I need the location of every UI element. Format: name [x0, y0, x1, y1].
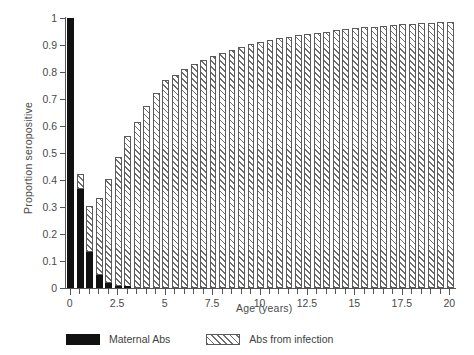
bar-segment-maternal — [124, 286, 131, 288]
legend-swatch-infection-icon — [206, 334, 240, 345]
bar-segment-infection — [210, 56, 217, 288]
bar-segment-infection — [342, 29, 349, 288]
plot-area: 00.10.20.30.40.50.60.70.80.91 — [66, 18, 455, 288]
bar — [380, 26, 387, 288]
bar-segment-infection — [437, 22, 444, 288]
bar — [153, 93, 160, 288]
x-tick-mark-minor — [79, 289, 80, 294]
bar-segment-infection — [248, 44, 255, 288]
x-tick-mark-major — [307, 289, 308, 295]
y-tick-mark — [60, 18, 66, 19]
bar-segment-maternal — [67, 18, 74, 288]
x-tick-mark-minor — [146, 289, 147, 294]
bar-segment-infection — [409, 24, 416, 288]
bar-segment-infection — [314, 33, 321, 288]
bar — [105, 180, 112, 288]
x-tick-mark-minor — [108, 289, 109, 294]
x-tick-mark-minor — [316, 289, 317, 294]
y-tick-mark — [60, 234, 66, 235]
bar-segment-infection — [124, 136, 131, 288]
y-axis-label: Proportion seropositive — [22, 58, 34, 258]
x-tick-mark-minor — [345, 289, 346, 294]
bar — [267, 40, 274, 288]
chart-figure: Proportion seropositive Age (years) 00.1… — [0, 0, 474, 355]
bar-segment-infection — [447, 22, 454, 288]
bar-segment-maternal — [77, 189, 84, 288]
bar — [304, 34, 311, 288]
bar-segment-infection — [380, 26, 387, 288]
bar — [172, 75, 179, 288]
y-tick-label: 0.9 — [42, 39, 57, 51]
y-tick-label: 0.7 — [42, 93, 57, 105]
bar-segment-infection — [304, 34, 311, 288]
bar-segment-infection — [361, 27, 368, 288]
x-tick-label: 0 — [67, 297, 73, 309]
bar-segment-infection — [115, 157, 122, 286]
bar — [162, 80, 169, 288]
bar-segment-infection — [399, 24, 406, 288]
bar-segment-infection — [229, 50, 236, 288]
x-tick-mark-minor — [288, 289, 289, 294]
bar-segment-infection — [286, 37, 293, 288]
y-tick-label: 0 — [51, 282, 57, 294]
bar-segment-infection — [86, 206, 93, 252]
x-tick-mark-minor — [174, 289, 175, 294]
bar — [418, 23, 425, 288]
bar-segment-infection — [333, 30, 340, 288]
x-tick-mark-major — [70, 289, 71, 295]
bar-segment-infection — [162, 80, 169, 288]
bar-segment-infection — [191, 64, 198, 288]
bar-segment-infection — [352, 28, 359, 288]
x-tick-mark-minor — [193, 289, 194, 294]
y-tick-mark — [60, 126, 66, 127]
x-tick-mark-minor — [250, 289, 251, 294]
bar-segment-infection — [153, 93, 160, 288]
bar-segment-infection — [134, 122, 141, 288]
y-tick-mark — [60, 99, 66, 100]
x-tick-mark-minor — [269, 289, 270, 294]
y-tick-label: 0.4 — [42, 174, 57, 186]
bar — [399, 24, 406, 288]
bar-segment-infection — [219, 53, 226, 288]
y-tick-label: 0.5 — [42, 147, 57, 159]
bar-segment-infection — [276, 38, 283, 288]
bar — [86, 207, 93, 288]
bar-segment-infection — [390, 25, 397, 288]
bar-segment-infection — [257, 42, 264, 288]
x-tick-mark-minor — [89, 289, 90, 294]
x-tick-mark-minor — [430, 289, 431, 294]
bar — [257, 42, 264, 288]
bar — [229, 50, 236, 288]
bar — [286, 37, 293, 288]
chart-legend: Maternal Abs Abs from infection — [66, 330, 466, 348]
bar-segment-infection — [428, 23, 435, 288]
x-tick-mark-minor — [155, 289, 156, 294]
y-tick-mark — [60, 180, 66, 181]
bar — [333, 30, 340, 288]
x-tick-mark-major — [449, 289, 450, 295]
x-tick-mark-minor — [392, 289, 393, 294]
bar — [77, 175, 84, 288]
bar — [143, 106, 150, 288]
bar-segment-maternal — [105, 283, 112, 288]
x-tick-mark-minor — [184, 289, 185, 294]
y-tick-label: 0.6 — [42, 120, 57, 132]
y-tick-mark — [60, 45, 66, 46]
bar-segment-infection — [143, 106, 150, 288]
x-tick-mark-minor — [421, 289, 422, 294]
x-tick-label: 7.5 — [205, 297, 220, 309]
x-tick-label: 20 — [443, 297, 455, 309]
bar — [428, 23, 435, 288]
x-tick-mark-major — [402, 289, 403, 295]
x-tick-label: 5 — [162, 297, 168, 309]
x-tick-mark-major — [260, 289, 261, 295]
bar — [371, 27, 378, 288]
bar — [191, 64, 198, 288]
x-tick-mark-minor — [203, 289, 204, 294]
bar-segment-infection — [418, 23, 425, 288]
legend-label-infection: Abs from infection — [249, 333, 333, 345]
bar-segment-infection — [105, 179, 112, 283]
bar — [447, 22, 454, 288]
x-tick-label: 12.5 — [297, 297, 317, 309]
bar — [409, 24, 416, 288]
